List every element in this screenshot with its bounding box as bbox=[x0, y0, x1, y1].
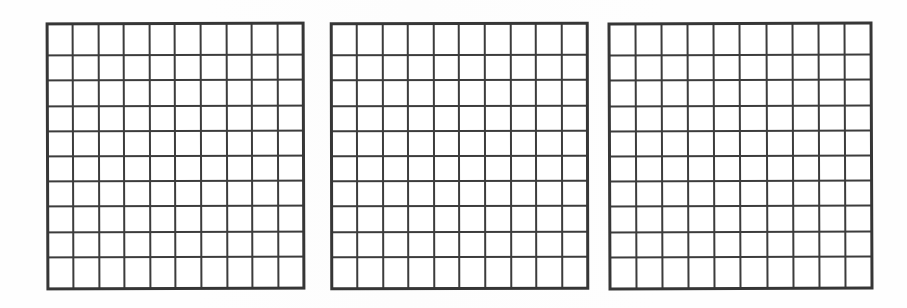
grid-cell[interactable] bbox=[818, 23, 844, 55]
grid-cell[interactable] bbox=[201, 55, 227, 80]
grid-cell[interactable] bbox=[47, 55, 73, 80]
grid-cell[interactable] bbox=[845, 130, 871, 155]
grid-cell[interactable] bbox=[511, 156, 537, 181]
grid-cell[interactable] bbox=[662, 131, 688, 156]
grid-cell[interactable] bbox=[150, 156, 176, 181]
grid-cell[interactable] bbox=[688, 131, 714, 156]
grid-cell[interactable] bbox=[688, 106, 714, 131]
grid-cell[interactable] bbox=[278, 181, 304, 206]
grid-cell[interactable] bbox=[124, 131, 150, 156]
grid-cell[interactable] bbox=[793, 231, 819, 256]
grid-cell[interactable] bbox=[609, 24, 635, 56]
grid-cell[interactable] bbox=[635, 24, 661, 56]
grid-cell[interactable] bbox=[714, 55, 740, 80]
grid-cell[interactable] bbox=[793, 257, 819, 289]
grid-cell[interactable] bbox=[226, 23, 252, 55]
grid-cell[interactable] bbox=[661, 55, 687, 80]
grid-cell[interactable] bbox=[408, 207, 434, 232]
grid-cell[interactable] bbox=[819, 55, 845, 80]
grid-cell[interactable] bbox=[150, 80, 176, 105]
grid-cell[interactable] bbox=[408, 80, 434, 105]
grid-cell[interactable] bbox=[73, 81, 99, 106]
grid-cell[interactable] bbox=[845, 181, 871, 206]
grid-cell[interactable] bbox=[226, 105, 252, 130]
grid-cell[interactable] bbox=[767, 257, 793, 289]
grid-cell[interactable] bbox=[47, 106, 73, 131]
grid-cell[interactable] bbox=[357, 232, 383, 257]
grid-cell[interactable] bbox=[252, 181, 278, 206]
grid-cell[interactable] bbox=[175, 80, 201, 105]
grid-cell[interactable] bbox=[150, 181, 176, 206]
grid-cell[interactable] bbox=[408, 181, 434, 206]
grid-cell[interactable] bbox=[124, 80, 150, 105]
grid-cell[interactable] bbox=[48, 232, 74, 257]
grid-cell[interactable] bbox=[434, 106, 460, 131]
grid-cell[interactable] bbox=[252, 55, 278, 80]
grid-cell[interactable] bbox=[98, 24, 124, 56]
grid-cell[interactable] bbox=[73, 131, 99, 156]
grid-cell[interactable] bbox=[227, 181, 253, 206]
grid-cell[interactable] bbox=[714, 24, 740, 56]
grid-cell[interactable] bbox=[459, 131, 485, 156]
grid-cell[interactable] bbox=[125, 232, 151, 257]
grid-cell[interactable] bbox=[766, 23, 792, 55]
grid-cell[interactable] bbox=[357, 80, 383, 105]
grid-cell[interactable] bbox=[793, 80, 819, 105]
grid-cell[interactable] bbox=[636, 232, 662, 257]
grid-cell[interactable] bbox=[845, 23, 871, 55]
grid-cell[interactable] bbox=[383, 257, 409, 289]
grid-cell[interactable] bbox=[201, 80, 227, 105]
grid-cell[interactable] bbox=[252, 206, 278, 231]
grid-cell[interactable] bbox=[150, 55, 176, 80]
grid-cell[interactable] bbox=[714, 156, 740, 181]
grid-cell[interactable] bbox=[227, 156, 253, 181]
grid-cell[interactable] bbox=[767, 181, 793, 206]
grid-cell[interactable] bbox=[176, 206, 202, 231]
grid-cell[interactable] bbox=[383, 232, 409, 257]
grid-cell[interactable] bbox=[434, 257, 460, 289]
grid-cell[interactable] bbox=[278, 105, 304, 130]
grid-cell[interactable] bbox=[485, 80, 511, 105]
grid-cell[interactable] bbox=[485, 206, 511, 231]
grid-cell[interactable] bbox=[688, 181, 714, 206]
grid-cell[interactable] bbox=[331, 106, 357, 131]
grid-cell[interactable] bbox=[252, 130, 278, 155]
grid-cell[interactable] bbox=[382, 55, 408, 80]
grid-cell[interactable] bbox=[99, 181, 125, 206]
grid-cell[interactable] bbox=[434, 181, 460, 206]
grid-cell[interactable] bbox=[73, 257, 99, 289]
grid-cell[interactable] bbox=[662, 181, 688, 206]
grid-cell[interactable] bbox=[383, 80, 409, 105]
grid-cell[interactable] bbox=[662, 232, 688, 257]
grid-cell[interactable] bbox=[740, 105, 766, 130]
grid-cell[interactable] bbox=[47, 81, 73, 106]
grid-figure-1[interactable] bbox=[46, 22, 306, 291]
grid-cell[interactable] bbox=[610, 156, 636, 181]
grid-cell[interactable] bbox=[357, 207, 383, 232]
grid-cell[interactable] bbox=[610, 182, 636, 207]
grid-cell[interactable] bbox=[662, 207, 688, 232]
grid-cell[interactable] bbox=[252, 105, 278, 130]
grid-cell[interactable] bbox=[792, 23, 818, 55]
grid-cell[interactable] bbox=[536, 131, 562, 156]
grid-cell[interactable] bbox=[511, 232, 537, 257]
grid-cell[interactable] bbox=[688, 24, 714, 56]
grid-cell[interactable] bbox=[99, 106, 125, 131]
grid-cell[interactable] bbox=[562, 80, 588, 105]
grid-cell[interactable] bbox=[609, 106, 635, 131]
grid-cell[interactable] bbox=[511, 181, 537, 206]
grid-cell[interactable] bbox=[278, 130, 304, 155]
grid-cell[interactable] bbox=[48, 156, 74, 181]
grid-cell[interactable] bbox=[48, 207, 74, 232]
grid-cell[interactable] bbox=[434, 24, 460, 56]
grid-cell[interactable] bbox=[714, 106, 740, 131]
grid-cell[interactable] bbox=[408, 55, 434, 80]
grid-cell[interactable] bbox=[766, 105, 792, 130]
grid-cell[interactable] bbox=[536, 206, 562, 231]
grid-cell[interactable] bbox=[125, 257, 151, 289]
grid-cell[interactable] bbox=[124, 24, 150, 56]
grid-cell[interactable] bbox=[408, 106, 434, 131]
grid-cell[interactable] bbox=[278, 231, 304, 256]
grid-cell[interactable] bbox=[485, 131, 511, 156]
grid-cell[interactable] bbox=[715, 257, 741, 289]
